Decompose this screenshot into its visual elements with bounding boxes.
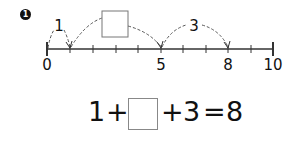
math-problem: 1 xyxy=(0,0,296,144)
axis-label-10: 10 xyxy=(263,56,282,74)
jump-arc-5-8-right xyxy=(202,25,228,47)
equation-term-1: 1 xyxy=(88,92,105,132)
jump-arc-0-1-left xyxy=(48,30,54,48)
axis-label-5: 5 xyxy=(156,56,166,74)
jump-arc-1-5-left xyxy=(71,18,102,47)
jump-blank-box[interactable] xyxy=(102,11,128,37)
equation-equals: = xyxy=(203,92,226,132)
jump-arc-5-8-left xyxy=(162,25,186,47)
equation: 1 + + 3 = 8 xyxy=(0,92,296,132)
axis-label-8: 8 xyxy=(223,56,233,74)
equation-blank-box[interactable] xyxy=(128,98,158,130)
number-line-diagram: 1 3 0 5 8 10 xyxy=(0,0,296,80)
jump-label-1: 1 xyxy=(54,17,64,35)
equation-plus-1: + xyxy=(106,92,129,132)
equation-plus-2: + xyxy=(161,92,184,132)
jump-arc-0-1-right xyxy=(64,30,70,47)
jump-arc-1-5-right xyxy=(128,26,161,47)
axis-label-0: 0 xyxy=(42,56,52,74)
jump-label-3: 3 xyxy=(189,17,199,35)
equation-result: 8 xyxy=(226,92,243,132)
equation-term-3: 3 xyxy=(183,92,200,132)
